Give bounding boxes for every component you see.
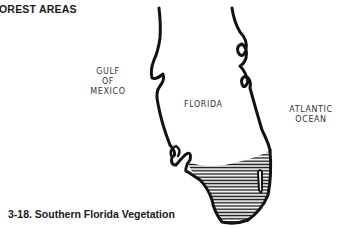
ocean-label-line1: ATLANTIC [286,105,336,115]
gulf-label-line3: MEXICO [88,87,128,97]
east-coastline [232,8,270,150]
gulf-of-mexico-label: GULF OF MEXICO [88,67,128,97]
figure-caption: 3-18. Southern Florida Vegetation [8,208,175,220]
ocean-label-line2: OCEAN [286,115,336,125]
florida-label: FLORIDA [184,100,223,110]
atlantic-ocean-label: ATLANTIC OCEAN [286,105,336,125]
barrier-island [258,170,262,193]
gulf-label-line2: OF [88,77,128,87]
gulf-label-line1: GULF [88,67,128,77]
